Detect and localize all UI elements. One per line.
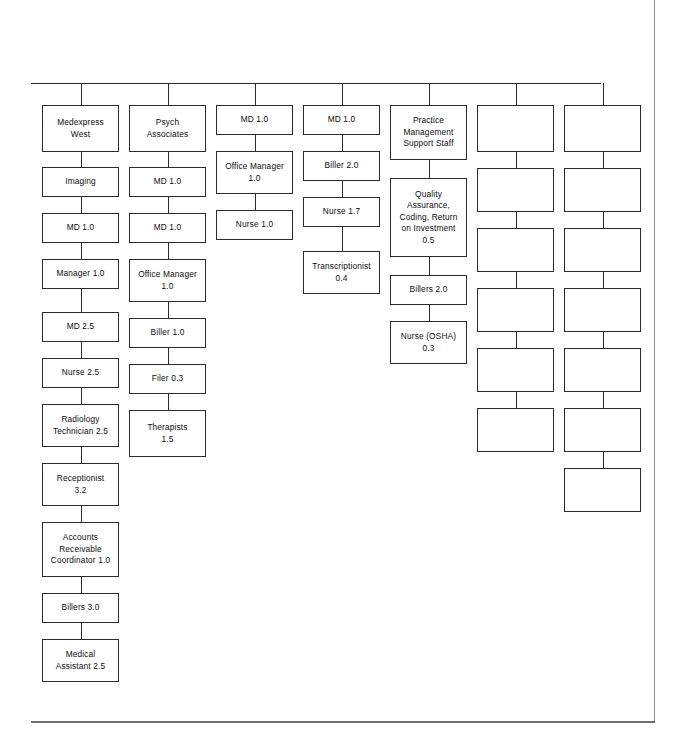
node-box[interactable]: MD 1.0 [303, 105, 380, 135]
node-box[interactable]: MD 1.0 [129, 213, 206, 243]
node-box[interactable] [477, 408, 554, 452]
node-box[interactable]: Billers 3.0 [42, 593, 119, 623]
node-connector-line [516, 152, 517, 168]
node-connector-line [429, 305, 430, 321]
node-connector-line [168, 348, 169, 364]
node-box[interactable]: Billers 2.0 [390, 275, 467, 305]
node-connector-line [81, 447, 82, 463]
node-box[interactable]: Radiology Technician 2.5 [42, 404, 119, 447]
node-box[interactable]: Nurse 1.7 [303, 197, 380, 227]
node-label: Nurse 1.7 [323, 206, 360, 217]
node-connector-line [81, 388, 82, 404]
node-connector-line [81, 623, 82, 639]
chart-page: Medexpress WestImagingMD 1.0Manager 1.0M… [0, 0, 679, 748]
trunk-drop-practice-management-support-staff [429, 83, 430, 105]
node-label: MD 1.0 [241, 114, 269, 125]
node-label: Office Manager 1.0 [138, 269, 197, 292]
node-box[interactable]: Office Manager 1.0 [216, 151, 293, 194]
node-connector-line [81, 289, 82, 312]
node-label: Nurse 2.5 [62, 367, 99, 378]
trunk-drop-medexpress-west [81, 83, 82, 105]
node-connector-line [81, 243, 82, 259]
node-connector-line [81, 152, 82, 167]
node-box[interactable] [564, 228, 641, 272]
node-connector-line [168, 394, 169, 410]
node-connector-line [342, 135, 343, 151]
node-label: Accounts Receivable Coordinator 1.0 [51, 532, 110, 566]
node-box[interactable]: Biller 1.0 [129, 318, 206, 348]
node-connector-line [429, 257, 430, 275]
node-box[interactable]: Transcriptionist 0.4 [303, 251, 380, 294]
node-box[interactable]: Office Manager 1.0 [129, 259, 206, 302]
node-box[interactable]: Biller 2.0 [303, 151, 380, 181]
node-box[interactable]: Receptionist 3.2 [42, 463, 119, 506]
node-box[interactable] [477, 168, 554, 212]
node-label: Practice Management Support Staff [403, 115, 453, 149]
node-label: Nurse 1.0 [236, 219, 273, 230]
node-box[interactable]: Imaging [42, 167, 119, 197]
node-box[interactable] [477, 348, 554, 392]
node-label: Nurse (OSHA) 0.3 [401, 331, 456, 354]
node-box[interactable]: Nurse (OSHA) 0.3 [390, 321, 467, 364]
node-connector-line [168, 302, 169, 318]
node-connector-line [603, 152, 604, 168]
node-connector-line [516, 392, 517, 408]
node-box[interactable] [564, 288, 641, 332]
trunk-drop-unlabeled-column-6 [516, 83, 517, 105]
node-label: Biller 2.0 [325, 160, 359, 171]
node-label: MD 1.0 [154, 222, 182, 233]
node-connector-line [168, 197, 169, 213]
node-label: Imaging [65, 176, 96, 187]
node-box[interactable]: Medexpress West [42, 105, 119, 152]
node-box[interactable]: Psych Associates [129, 105, 206, 152]
node-box[interactable] [564, 408, 641, 452]
node-label: MD 2.5 [67, 321, 95, 332]
node-label: Receptionist 3.2 [57, 473, 104, 496]
trunk-drop-md-biller-nurse-transcriptionist [342, 83, 343, 105]
node-label: Radiology Technician 2.5 [53, 414, 108, 437]
node-box[interactable] [564, 168, 641, 212]
node-box[interactable]: Practice Management Support Staff [390, 105, 467, 160]
node-box[interactable]: Quality Assurance, Coding, Return on Inv… [390, 178, 467, 257]
node-box[interactable] [564, 105, 641, 152]
node-label: Manager 1.0 [56, 268, 104, 279]
node-box[interactable]: Nurse 1.0 [216, 210, 293, 240]
node-box[interactable]: Filer 0.3 [129, 364, 206, 394]
node-label: Billers 2.0 [409, 284, 447, 295]
node-connector-line [255, 194, 256, 210]
node-box[interactable]: Nurse 2.5 [42, 358, 119, 388]
node-box[interactable] [564, 348, 641, 392]
node-box[interactable]: MD 1.0 [216, 105, 293, 135]
org-chart: Medexpress WestImagingMD 1.0Manager 1.0M… [0, 0, 679, 748]
node-box[interactable]: Manager 1.0 [42, 259, 119, 289]
node-label: MD 1.0 [328, 114, 356, 125]
node-connector-line [255, 135, 256, 151]
node-connector-line [168, 152, 169, 167]
node-connector-line [429, 160, 430, 178]
node-connector-line [342, 181, 343, 197]
node-connector-line [342, 227, 343, 251]
page-border-right [654, 0, 655, 722]
node-label: Medexpress West [57, 117, 104, 140]
node-label: Therapists 1.5 [147, 422, 187, 445]
page-border-bottom [31, 721, 655, 723]
node-connector-line [603, 212, 604, 228]
node-box[interactable]: Accounts Receivable Coordinator 1.0 [42, 522, 119, 577]
node-box[interactable] [477, 228, 554, 272]
node-box[interactable] [564, 468, 641, 512]
node-connector-line [168, 243, 169, 259]
node-box[interactable]: MD 1.0 [129, 167, 206, 197]
node-box[interactable]: MD 1.0 [42, 213, 119, 243]
node-label: Quality Assurance, Coding, Return on Inv… [400, 189, 458, 246]
trunk-drop-md-office-nurse [255, 83, 256, 105]
node-label: Transcriptionist 0.4 [312, 261, 370, 284]
node-box[interactable]: Medical Assistant 2.5 [42, 639, 119, 682]
trunk-drop-psych-associates [168, 83, 169, 105]
node-box[interactable]: Therapists 1.5 [129, 410, 206, 457]
trunk-drop-unlabeled-column-7 [603, 83, 604, 105]
node-label: Medical Assistant 2.5 [56, 649, 105, 672]
node-box[interactable]: MD 2.5 [42, 312, 119, 342]
node-box[interactable] [477, 105, 554, 152]
node-box[interactable] [477, 288, 554, 332]
node-label: Billers 3.0 [61, 602, 99, 613]
